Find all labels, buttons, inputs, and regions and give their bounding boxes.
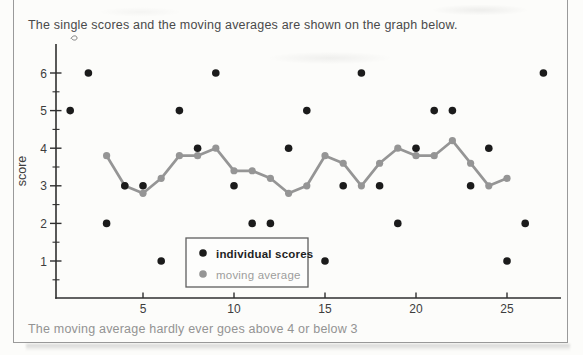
individual-score-point: [449, 107, 457, 115]
individual-score-point: [358, 69, 366, 77]
individual-score-point: [321, 257, 329, 265]
moving-average-point: [103, 152, 110, 159]
moving-average-point: [285, 190, 292, 197]
moving-average-point: [303, 182, 310, 189]
individual-score-point: [394, 220, 402, 228]
scan-shadow-artifact: [26, 344, 570, 351]
x-tick-label: 5: [140, 302, 147, 316]
individual-score-point: [66, 107, 74, 115]
individual-score-point: [521, 220, 529, 228]
moving-average-point: [412, 152, 419, 159]
moving-average-point: [485, 182, 492, 189]
moving-average-point: [449, 137, 456, 144]
y-tick-label: 1: [40, 255, 47, 269]
individual-score-point: [485, 144, 493, 152]
x-tick-label: 25: [500, 302, 514, 316]
individual-score-point: [212, 69, 220, 77]
scatter-chart: 123456510152025scoreindividual scoresmov…: [0, 0, 583, 355]
moving-average-point: [376, 160, 383, 167]
x-tick-label: 20: [409, 302, 423, 316]
individual-score-point: [157, 257, 165, 265]
y-tick-label: 2: [40, 217, 47, 231]
x-tick-label: 15: [318, 302, 332, 316]
individual-score-point: [503, 257, 511, 265]
moving-average-point: [249, 167, 256, 174]
moving-average-point: [358, 182, 365, 189]
moving-average-point: [230, 167, 237, 174]
individual-score-point: [85, 69, 93, 77]
moving-average-point: [212, 145, 219, 152]
y-tick-label: 5: [40, 104, 47, 118]
legend-individual-scores-label: individual scores: [216, 248, 313, 260]
individual-score-point: [412, 144, 420, 152]
individual-score-point: [176, 107, 184, 115]
moving-average-point: [340, 160, 347, 167]
moving-average-point: [321, 152, 328, 159]
scanned-page: The single scores and the moving average…: [0, 0, 583, 355]
moving-average-point: [503, 175, 510, 182]
y-axis-label: score: [15, 156, 29, 187]
moving-average-point: [267, 175, 274, 182]
individual-score-point: [194, 144, 202, 152]
y-tick-label: 4: [40, 142, 47, 156]
individual-score-point: [467, 182, 475, 190]
moving-average-point: [194, 152, 201, 159]
individual-score-point: [248, 220, 256, 228]
caption-bottom: The moving average hardly ever goes abov…: [28, 322, 548, 336]
individual-score-point: [376, 182, 384, 190]
x-tick-label: 10: [227, 302, 241, 316]
moving-average-point: [158, 175, 165, 182]
individual-score-point: [430, 107, 438, 115]
individual-score-point: [540, 69, 548, 77]
individual-score-point: [139, 182, 147, 190]
moving-average-point: [467, 160, 474, 167]
legend-moving-average-label: moving average: [216, 269, 301, 281]
y-tick-label: 6: [40, 67, 47, 81]
individual-score-point: [267, 220, 275, 228]
individual-score-point: [230, 182, 238, 190]
scan-squiggle-artifact: [71, 36, 77, 40]
individual-score-point: [303, 107, 311, 115]
legend-moving-average-dot: [199, 270, 207, 278]
legend-individual-scores-dot: [199, 249, 207, 257]
moving-average-point: [431, 152, 438, 159]
moving-average-point: [139, 190, 146, 197]
moving-average-point: [394, 145, 401, 152]
individual-score-point: [285, 144, 293, 152]
moving-average-point: [176, 152, 183, 159]
individual-score-point: [121, 182, 129, 190]
individual-score-point: [103, 220, 111, 228]
y-tick-label: 3: [40, 179, 47, 193]
individual-score-point: [339, 182, 347, 190]
